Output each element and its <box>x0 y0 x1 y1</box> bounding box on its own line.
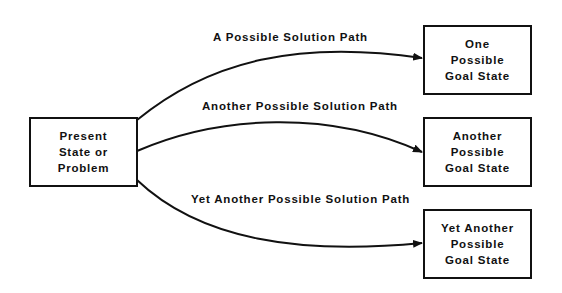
present-line-2: State or <box>58 144 110 160</box>
path-label-1: A Possible Solution Path <box>213 31 368 43</box>
goal-3-line-1: Yet Another <box>441 220 514 236</box>
goal-2-line-3: Goal State <box>445 160 510 176</box>
path-arrow-3 <box>137 180 422 247</box>
goal-1-line-3: Goal State <box>445 68 510 84</box>
goal-state-box-2: Another Possible Goal State <box>423 117 532 187</box>
present-line-1: Present <box>58 128 110 144</box>
goal-state-box-1: One Possible Goal State <box>423 25 532 95</box>
goal-2-line-1: Another <box>445 128 510 144</box>
goal-3-line-3: Goal State <box>441 252 514 268</box>
present-state-box: Present State or Problem <box>29 117 138 187</box>
goal-state-box-3: Yet Another Possible Goal State <box>423 209 532 279</box>
path-arrow-2 <box>137 122 422 152</box>
goal-1-line-1: One <box>445 36 510 52</box>
path-label-2: Another Possible Solution Path <box>202 100 398 112</box>
goal-1-line-2: Possible <box>445 52 510 68</box>
present-line-3: Problem <box>58 160 110 176</box>
goal-3-line-2: Possible <box>441 236 514 252</box>
path-label-3: Yet Another Possible Solution Path <box>191 193 410 205</box>
goal-2-line-2: Possible <box>445 144 510 160</box>
